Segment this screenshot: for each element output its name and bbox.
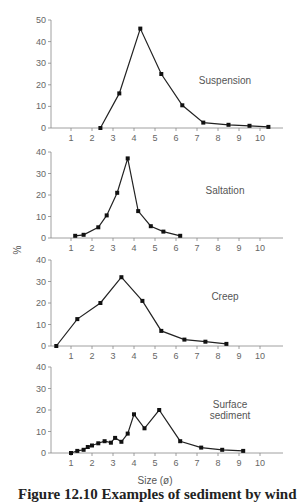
data-point: [75, 317, 79, 321]
chart-panels: 0102030405012345678910Suspension01020304…: [36, 15, 283, 468]
data-point: [119, 275, 123, 279]
x-tick-label: 4: [131, 243, 136, 253]
panel-title: sediment: [210, 410, 251, 421]
data-line: [75, 158, 180, 235]
x-tick-label: 6: [173, 133, 178, 143]
data-point: [180, 103, 184, 107]
x-tick-label: 1: [68, 351, 73, 361]
data-point: [136, 209, 140, 213]
data-point: [203, 340, 207, 344]
x-tick-label: 4: [131, 351, 136, 361]
x-tick-label: 8: [215, 243, 220, 253]
figure-caption: Figure 12.10 Examples of sediment by win…: [18, 486, 297, 503]
data-point: [105, 213, 109, 217]
data-point: [224, 342, 228, 346]
y-tick-label: 40: [36, 255, 46, 265]
panel-title: Creep: [211, 291, 239, 302]
x-tick-label: 1: [68, 133, 73, 143]
x-tick-label: 3: [110, 243, 115, 253]
data-point: [140, 299, 144, 303]
data-point: [98, 126, 102, 130]
y-tick-label: 10: [36, 320, 46, 330]
data-point: [109, 441, 113, 445]
panel-suspension: 0102030405012345678910Suspension: [36, 15, 283, 143]
data-point: [159, 329, 163, 333]
x-tick-label: 5: [152, 133, 157, 143]
y-axis-label: %: [12, 245, 23, 254]
y-tick-label: 0: [41, 233, 46, 243]
data-point: [266, 125, 270, 129]
y-tick-label: 50: [36, 15, 46, 25]
y-tick-label: 0: [41, 123, 46, 133]
x-tick-label: 7: [194, 458, 199, 468]
x-tick-label: 8: [215, 458, 220, 468]
data-point: [82, 233, 86, 237]
x-tick-label: 3: [110, 133, 115, 143]
x-tick-label: 10: [255, 243, 265, 253]
data-point: [138, 27, 142, 31]
y-tick-label: 20: [36, 80, 46, 90]
data-point: [119, 440, 123, 444]
x-tick-label: 8: [215, 133, 220, 143]
axis-lines: [51, 152, 283, 238]
data-point: [82, 448, 86, 452]
y-tick-label: 30: [36, 58, 46, 68]
x-axis-label: Size (ø): [138, 475, 173, 486]
x-tick-label: 6: [173, 351, 178, 361]
data-point: [178, 234, 182, 238]
panel-title: Surface: [213, 399, 248, 410]
y-tick-label: 10: [36, 427, 46, 437]
y-tick-label: 20: [36, 405, 46, 415]
x-tick-label: 9: [236, 458, 241, 468]
y-tick-label: 0: [41, 341, 46, 351]
x-tick-label: 9: [236, 133, 241, 143]
data-point: [178, 439, 182, 443]
data-point: [161, 230, 165, 234]
x-tick-label: 3: [110, 351, 115, 361]
wind-sediment-figure: 0102030405012345678910Suspension01020304…: [0, 0, 299, 503]
x-tick-label: 4: [131, 458, 136, 468]
data-point: [75, 449, 79, 453]
panel-title: Saltation: [206, 185, 245, 196]
data-point: [96, 225, 100, 229]
data-point: [227, 123, 231, 127]
x-tick-label: 9: [236, 351, 241, 361]
y-tick-label: 0: [41, 448, 46, 458]
panel-creep: 01020304012345678910Creep: [36, 255, 283, 361]
y-tick-label: 30: [36, 384, 46, 394]
y-tick-label: 20: [36, 190, 46, 200]
x-tick-label: 5: [152, 243, 157, 253]
y-tick-label: 20: [36, 298, 46, 308]
x-tick-label: 5: [152, 458, 157, 468]
data-point: [241, 449, 245, 453]
y-tick-label: 40: [36, 362, 46, 372]
x-tick-label: 9: [236, 243, 241, 253]
data-point: [96, 441, 100, 445]
x-tick-label: 7: [194, 243, 199, 253]
x-tick-label: 8: [215, 351, 220, 361]
data-point: [126, 432, 130, 436]
data-point: [201, 121, 205, 125]
x-tick-label: 2: [89, 243, 94, 253]
panel-title: Suspension: [199, 75, 251, 86]
x-tick-label: 4: [131, 133, 136, 143]
panel-saltation: 01020304012345678910Saltation: [36, 147, 283, 253]
x-tick-label: 7: [194, 351, 199, 361]
x-tick-label: 1: [68, 458, 73, 468]
y-tick-label: 40: [36, 37, 46, 47]
x-tick-label: 10: [255, 351, 265, 361]
data-point: [117, 91, 121, 95]
y-tick-label: 30: [36, 169, 46, 179]
x-tick-label: 3: [110, 458, 115, 468]
data-point: [220, 448, 224, 452]
x-tick-label: 7: [194, 133, 199, 143]
y-tick-label: 10: [36, 212, 46, 222]
panel-surface-sediment: 01020304012345678910Surfacesediment: [36, 362, 283, 468]
y-tick-label: 10: [36, 101, 46, 111]
x-tick-label: 2: [89, 351, 94, 361]
data-point: [98, 301, 102, 305]
data-point: [86, 445, 90, 449]
x-tick-label: 5: [152, 351, 157, 361]
x-tick-label: 6: [173, 243, 178, 253]
data-line: [56, 277, 226, 346]
